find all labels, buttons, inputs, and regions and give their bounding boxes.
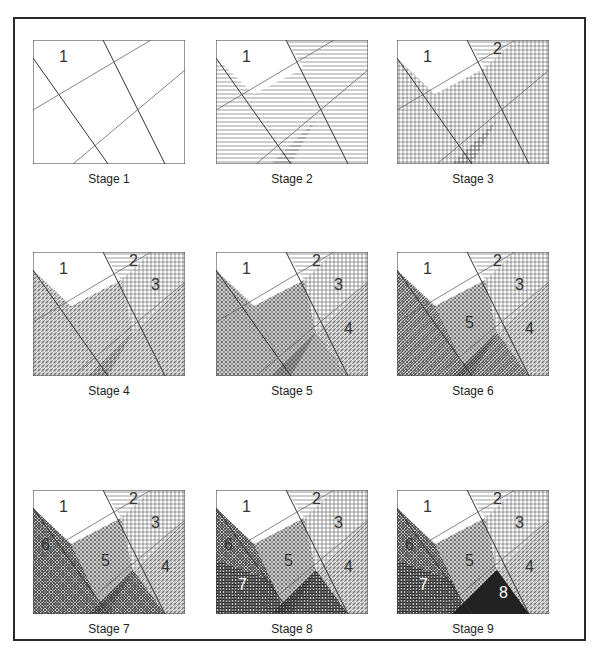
stage-2-drawing: 1: [216, 40, 368, 164]
stage-7-drawing: 123456: [33, 490, 185, 614]
region-label-7: 7: [238, 576, 247, 593]
region-label-5: 5: [101, 552, 110, 569]
region-label-3: 3: [334, 276, 343, 293]
stage-9-drawing: 12345678: [397, 490, 549, 614]
stage-1-drawing: 1: [33, 40, 185, 164]
region-label-2: 2: [493, 252, 502, 269]
region-label-4: 4: [161, 558, 170, 575]
stage-5-caption: Stage 5: [216, 384, 368, 398]
region-label-4: 4: [525, 320, 534, 337]
stage-7-caption: Stage 7: [33, 622, 185, 636]
region-label-1: 1: [423, 498, 432, 515]
region-label-4: 4: [344, 558, 353, 575]
region-label-6: 6: [405, 536, 414, 553]
region-label-1: 1: [242, 48, 251, 65]
region-label-1: 1: [242, 260, 251, 277]
stage-8-caption: Stage 8: [216, 622, 368, 636]
region-label-6: 6: [41, 536, 50, 553]
region-label-3: 3: [334, 514, 343, 531]
region-label-1: 1: [423, 48, 432, 65]
region-label-2: 2: [129, 490, 138, 507]
region-label-5: 5: [465, 314, 474, 331]
region-label-1: 1: [59, 260, 68, 277]
region-label-4: 4: [525, 558, 534, 575]
stage-6-caption: Stage 6: [397, 384, 549, 398]
region-label-2: 2: [312, 490, 321, 507]
region-label-8: 8: [499, 584, 508, 601]
region-label-2: 2: [129, 252, 138, 269]
region-label-7: 7: [419, 576, 428, 593]
stage-3-panel: 12 Stage 3: [397, 40, 549, 188]
stage-6-panel: 12345 Stage 6: [397, 252, 549, 400]
region-label-5: 5: [465, 552, 474, 569]
stage-9-panel: 12345678 Stage 9: [397, 490, 549, 638]
stage-2-caption: Stage 2: [216, 172, 368, 186]
region-label-6: 6: [224, 536, 233, 553]
region-label-3: 3: [515, 514, 524, 531]
stage-4-panel: 123 Stage 4: [33, 252, 185, 400]
stage-5-drawing: 1234: [216, 252, 368, 376]
stage-8-panel: 1234567 Stage 8: [216, 490, 368, 638]
region-label-2: 2: [493, 490, 502, 507]
stage-6-drawing: 12345: [397, 252, 549, 376]
stage-8-drawing: 1234567: [216, 490, 368, 614]
region-label-1: 1: [59, 498, 68, 515]
region-label-1: 1: [423, 260, 432, 277]
region-label-3: 3: [151, 276, 160, 293]
stage-7-panel: 123456 Stage 7: [33, 490, 185, 638]
stage-5-panel: 1234 Stage 5: [216, 252, 368, 400]
region-label-5: 5: [284, 552, 293, 569]
region-label-2: 2: [493, 40, 502, 57]
stage-3-drawing: 12: [397, 40, 549, 164]
stage-4-drawing: 123: [33, 252, 185, 376]
region-label-1: 1: [242, 498, 251, 515]
stage-1-caption: Stage 1: [33, 172, 185, 186]
stage-4-caption: Stage 4: [33, 384, 185, 398]
region-label-2: 2: [312, 252, 321, 269]
stage-9-caption: Stage 9: [397, 622, 549, 636]
region-label-1: 1: [59, 48, 68, 65]
region-label-3: 3: [151, 514, 160, 531]
stage-1-panel: 1 Stage 1: [33, 40, 185, 188]
stage-2-panel: 1 Stage 2: [216, 40, 368, 188]
stage-3-caption: Stage 3: [397, 172, 549, 186]
region-label-3: 3: [515, 276, 524, 293]
region-label-4: 4: [344, 320, 353, 337]
